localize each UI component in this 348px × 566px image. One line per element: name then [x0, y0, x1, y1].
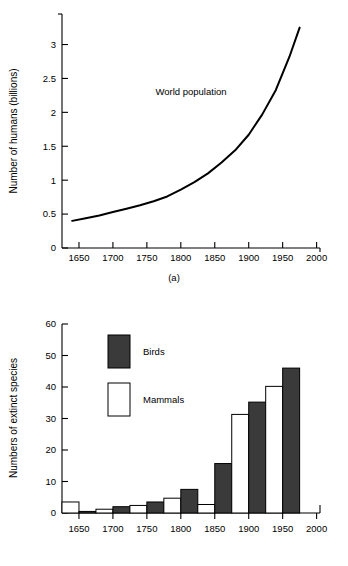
x-tick-label-a: 1750	[136, 252, 157, 263]
bar-mammals-1675	[96, 509, 113, 513]
x-tick-label-a: 1950	[272, 252, 293, 263]
bar-mammals-1775	[164, 498, 181, 513]
y-axis-title-a: Number of humans (billions)	[8, 68, 19, 193]
bar-birds-1850	[215, 464, 232, 513]
x-tick-label-a: 1800	[170, 252, 191, 263]
bar-mammals-1875	[232, 414, 249, 513]
y-tick-label-a: 2	[51, 107, 56, 118]
legend-swatch-mammals	[108, 383, 130, 416]
bar-birds-1750	[147, 502, 164, 513]
y-ticks-group-b: 0102030405060	[45, 318, 68, 518]
x-tick-label-b: 1800	[170, 523, 191, 534]
world-population-annotation: World population	[155, 86, 226, 97]
y-tick-label-b: 30	[45, 413, 56, 424]
y-tick-label-b: 20	[45, 444, 56, 455]
y-tick-label-a: 0	[51, 242, 56, 253]
bars-group	[62, 368, 300, 513]
y-tick-label-b: 40	[45, 381, 56, 392]
bar-birds-1950	[283, 368, 300, 513]
bar-mammals-1925	[266, 386, 283, 513]
x-tick-label-b: 1650	[68, 523, 89, 534]
y-tick-label-b: 0	[51, 507, 56, 518]
y-tick-label-b: 50	[45, 350, 56, 361]
legend-label-birds: Birds	[143, 346, 165, 357]
x-tick-label-b: 1750	[136, 523, 157, 534]
bar-birds-1900	[249, 402, 266, 513]
y-tick-label-a: 2.5	[43, 73, 56, 84]
x-tick-label-a: 2000	[306, 252, 327, 263]
y-tick-label-a: 1	[51, 175, 56, 186]
y-tick-label-b: 10	[45, 476, 56, 487]
caption-a: (a)	[0, 272, 348, 283]
legend-swatch-birds	[108, 335, 130, 368]
y-tick-label-a: 0.5	[43, 208, 56, 219]
chart-extinct-species: 0102030405060 16501700175018001850190019…	[0, 283, 348, 566]
legend: BirdsMammals	[108, 335, 184, 416]
x-tick-label-b: 1900	[238, 523, 259, 534]
y-tick-label-b: 60	[45, 318, 56, 329]
x-tick-label-b: 1850	[204, 523, 225, 534]
x-tick-label-a: 1700	[102, 252, 123, 263]
world-population-curve	[72, 28, 299, 221]
bar-mammals-1725	[130, 505, 147, 513]
legend-label-mammals: Mammals	[143, 394, 184, 405]
bar-mammals-1825	[198, 504, 215, 513]
y-tick-label-a: 1.5	[43, 141, 56, 152]
x-tick-label-b: 2000	[306, 523, 327, 534]
figure-page: 00.511.522.53 16501700175018001850190019…	[0, 0, 348, 566]
bar-birds-1700	[113, 507, 130, 513]
x-tick-label-b: 1700	[102, 523, 123, 534]
extinct-species-svg: 0102030405060 16501700175018001850190019…	[0, 283, 348, 566]
x-tick-label-a: 1850	[204, 252, 225, 263]
chart-world-population: 00.511.522.53 16501700175018001850190019…	[0, 0, 348, 290]
x-tick-label-b: 1950	[272, 523, 293, 534]
x-tick-label-a: 1900	[238, 252, 259, 263]
x-ticks-group-b: 16501700175018001850190019502000	[68, 513, 327, 534]
bar-mammals-1625	[62, 502, 79, 513]
y-axis-title-b: Numbers of extinct species	[8, 358, 19, 478]
x-ticks-group-a: 16501700175018001850190019502000	[68, 242, 327, 263]
y-tick-label-a: 3	[51, 39, 56, 50]
x-tick-label-a: 1650	[68, 252, 89, 263]
y-ticks-group-a: 00.511.522.53	[43, 39, 68, 253]
world-population-svg: 00.511.522.53 16501700175018001850190019…	[0, 0, 348, 290]
bar-birds-1800	[181, 489, 198, 513]
bar-birds-1650	[79, 511, 96, 513]
